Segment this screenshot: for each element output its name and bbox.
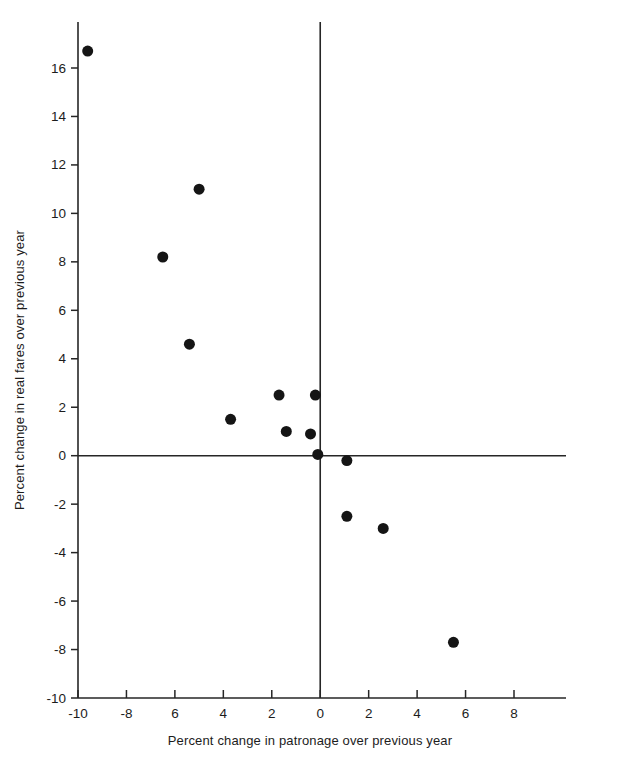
y-axis-tick-label: 2	[58, 400, 66, 415]
x-axis-tick-label: -8	[120, 706, 132, 721]
x-axis-tick-label: 6	[171, 706, 179, 721]
data-points-group	[82, 46, 459, 648]
y-axis-tick-label: 14	[51, 109, 67, 124]
data-point	[378, 523, 389, 534]
x-axis-tick-label: 8	[510, 706, 518, 721]
y-axis-tick-label: 12	[51, 157, 66, 172]
x-axis-tick-label: 4	[413, 706, 421, 721]
y-axis-tick-label: -4	[54, 545, 66, 560]
data-point	[82, 46, 93, 57]
x-axis-tick-label: 4	[220, 706, 228, 721]
y-axis-tick-label: 10	[51, 206, 66, 221]
x-axis-title: Percent change in patronage over previou…	[168, 733, 453, 748]
y-axis-tick-label: -8	[54, 642, 66, 657]
data-point	[310, 390, 321, 401]
data-point	[184, 339, 195, 350]
data-point	[341, 511, 352, 522]
data-point	[305, 428, 316, 439]
data-point	[341, 455, 352, 466]
y-axis-tick-label: 0	[58, 448, 66, 463]
y-axis-ticks: 1614121086420-2-4-6-8-10	[46, 61, 78, 706]
x-axis-tick-label: 6	[462, 706, 470, 721]
y-axis-tick-label: 8	[58, 254, 66, 269]
data-point	[157, 252, 168, 263]
data-point	[312, 449, 323, 460]
data-point	[448, 637, 459, 648]
y-axis-tick-label: -10	[46, 691, 66, 706]
x-axis-ticks: -10-864202468	[68, 690, 518, 721]
x-axis-tick-label: -10	[68, 706, 88, 721]
scatter-plot-svg: 1614121086420-2-4-6-8-10 -10-864202468 P…	[0, 0, 620, 769]
x-axis-tick-label: 2	[365, 706, 373, 721]
data-point	[194, 184, 205, 195]
y-axis-tick-label: 16	[51, 61, 66, 76]
y-axis-tick-label: -2	[54, 497, 66, 512]
y-axis-title: Percent change in real fares over previo…	[12, 229, 27, 510]
data-point	[225, 414, 236, 425]
y-axis-tick-label: -6	[54, 594, 66, 609]
data-point	[281, 426, 292, 437]
x-axis-tick-label: 0	[316, 706, 324, 721]
scatter-chart-figure: 1614121086420-2-4-6-8-10 -10-864202468 P…	[0, 0, 620, 769]
y-axis-tick-label: 4	[58, 351, 66, 366]
y-axis-tick-label: 6	[58, 303, 66, 318]
data-point	[274, 390, 285, 401]
x-axis-tick-label: 2	[268, 706, 276, 721]
